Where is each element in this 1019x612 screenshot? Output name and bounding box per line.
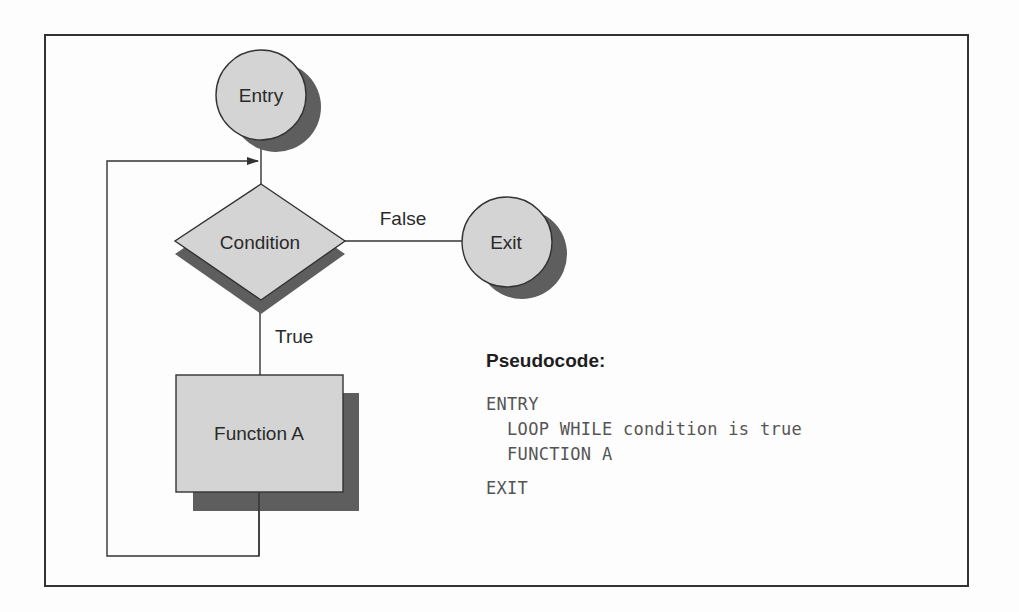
figure-frame: [45, 35, 968, 586]
pseudocode-heading: Pseudocode:: [486, 350, 605, 371]
exit-node: Exit: [462, 197, 567, 299]
pseudocode-line: EXIT: [486, 478, 528, 498]
exit-label: Exit: [490, 232, 522, 253]
entry-node: Entry: [216, 50, 321, 152]
pseudocode-block: Pseudocode: ENTRY LOOP WHILE condition i…: [486, 350, 802, 498]
flowchart-figure: Entry Condition Exit Function A False Tr…: [0, 0, 1019, 612]
condition-node: Condition: [175, 184, 345, 314]
pseudocode-line: LOOP WHILE condition is true: [486, 419, 802, 439]
false-edge-label: False: [380, 208, 426, 229]
pseudocode-line: FUNCTION A: [486, 444, 612, 464]
condition-label: Condition: [220, 232, 300, 253]
function-a-node: Function A: [176, 375, 359, 511]
pseudocode-line: ENTRY: [486, 394, 539, 414]
true-edge-label: True: [275, 326, 313, 347]
function-a-label: Function A: [214, 423, 304, 444]
entry-label: Entry: [239, 85, 284, 106]
